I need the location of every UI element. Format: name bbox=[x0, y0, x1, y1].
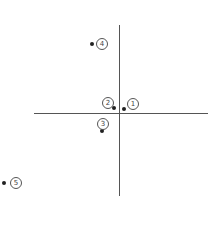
horizontal-axis bbox=[34, 113, 208, 114]
point-5-label: 5 bbox=[10, 177, 22, 189]
point-1-dot bbox=[122, 107, 126, 111]
point-3-label: 3 bbox=[97, 118, 109, 130]
vertical-axis bbox=[119, 25, 120, 196]
point-4-label: 4 bbox=[96, 38, 108, 50]
point-1-label: 1 bbox=[127, 98, 139, 110]
point-2-label: 2 bbox=[102, 97, 114, 109]
point-5-dot bbox=[2, 181, 6, 185]
point-4-dot bbox=[90, 42, 94, 46]
